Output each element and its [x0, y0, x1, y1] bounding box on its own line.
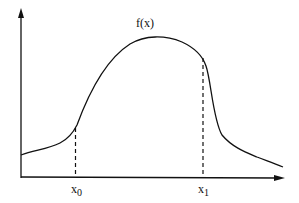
function-label: f(x) — [136, 16, 154, 30]
function-diagram: f(x) x0 x1 — [0, 0, 299, 203]
x0-label: x0 — [71, 182, 82, 198]
function-curve — [21, 37, 283, 167]
x1-label: x1 — [198, 182, 209, 198]
x-axis-arrow-icon — [274, 175, 285, 181]
y-axis-arrow-icon — [18, 8, 24, 18]
x-axis — [21, 177, 278, 178]
